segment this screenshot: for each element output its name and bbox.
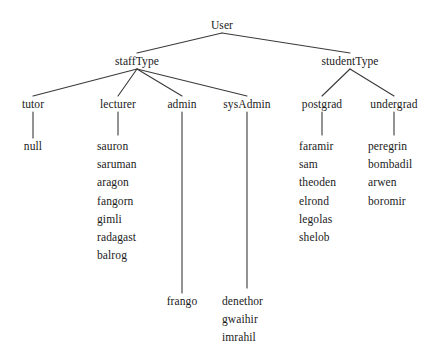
leaf-item[interactable]: null xyxy=(24,140,42,152)
leaf-item[interactable]: bombadil xyxy=(368,155,412,173)
edge-studenttype-postgrad xyxy=(322,69,350,96)
leaf-item[interactable]: elrond xyxy=(299,192,336,210)
tree-diagram-canvas: User staffType studentType tutor lecture… xyxy=(0,0,443,362)
leaf-item[interactable]: arwen xyxy=(368,173,412,191)
leaf-list-admin: frango xyxy=(167,295,198,308)
edge-stafftype-sysadmin xyxy=(137,69,247,96)
tree-node-lecturer[interactable]: lecturer xyxy=(100,98,136,111)
leaf-list-sysadmin: denethorgwaihirimrahil xyxy=(222,292,263,347)
leaf-item[interactable]: sauron xyxy=(97,137,137,155)
leaf-item[interactable]: denethor xyxy=(222,292,263,310)
tree-node-postgrad[interactable]: postgrad xyxy=(302,98,342,111)
leaf-list-postgrad: faramirsamtheodenelrondlegolasshelob xyxy=(299,137,336,246)
tree-node-sysadmin[interactable]: sysAdmin xyxy=(223,98,270,111)
leaf-item[interactable]: theoden xyxy=(299,173,336,191)
leaf-item[interactable]: boromir xyxy=(368,192,412,210)
edge-stafftype-lecturer xyxy=(118,69,137,96)
leaf-item[interactable]: legolas xyxy=(299,210,336,228)
leaf-list-undergrad: peregrinbombadilarwenboromir xyxy=(368,137,412,210)
leaf-item[interactable]: balrog xyxy=(97,246,137,264)
leaf-item[interactable]: imrahil xyxy=(222,328,263,346)
leaf-item[interactable]: sam xyxy=(299,155,336,173)
leaf-item[interactable]: aragon xyxy=(97,173,137,191)
tree-node-user[interactable]: User xyxy=(211,19,233,32)
tree-node-label: undergrad xyxy=(370,98,417,110)
leaf-item[interactable]: gimli xyxy=(97,210,137,228)
tree-node-label: admin xyxy=(167,98,196,110)
tree-node-label: lecturer xyxy=(100,98,136,110)
tree-node-label: sysAdmin xyxy=(223,98,270,110)
edge-stafftype-admin xyxy=(137,69,182,96)
tree-node-stafftype[interactable]: staffType xyxy=(115,55,159,68)
tree-node-admin[interactable]: admin xyxy=(167,98,196,111)
tree-node-studenttype[interactable]: studentType xyxy=(321,55,378,68)
edge-stafftype-tutor xyxy=(33,69,137,96)
tree-node-tutor[interactable]: tutor xyxy=(22,98,44,111)
leaf-item[interactable]: fangorn xyxy=(97,192,137,210)
tree-node-label: User xyxy=(211,19,233,31)
tree-node-label: studentType xyxy=(321,55,378,67)
leaf-item[interactable]: saruman xyxy=(97,155,137,173)
edge-user-stafftype xyxy=(137,33,222,53)
tree-node-label: tutor xyxy=(22,98,44,110)
leaf-item[interactable]: gwaihir xyxy=(222,310,263,328)
leaf-item[interactable]: radagast xyxy=(97,228,137,246)
edge-user-studenttype xyxy=(222,33,350,53)
leaf-list-tutor: null xyxy=(24,140,42,153)
tree-node-label: postgrad xyxy=(302,98,342,110)
tree-node-undergrad[interactable]: undergrad xyxy=(370,98,417,111)
leaf-item[interactable]: frango xyxy=(167,295,198,307)
leaf-list-lecturer: sauronsarumanaragonfangorngimliradagastb… xyxy=(97,137,137,264)
edge-studenttype-undergrad xyxy=(350,69,394,96)
leaf-item[interactable]: faramir xyxy=(299,137,336,155)
leaf-item[interactable]: peregrin xyxy=(368,137,412,155)
tree-node-label: staffType xyxy=(115,55,159,67)
leaf-item[interactable]: shelob xyxy=(299,228,336,246)
